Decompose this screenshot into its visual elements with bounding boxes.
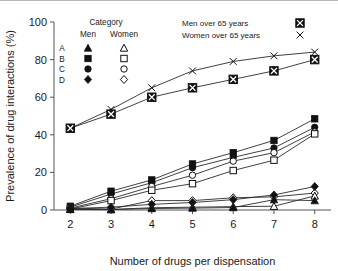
legend-marker-open-circle — [121, 66, 127, 72]
marker-filled-square — [271, 137, 277, 143]
legend-marker-filled-diamond — [84, 76, 91, 84]
chart-figure: 0204060801002345678Number of drugs per d… — [0, 0, 338, 271]
y-tick-label: 60 — [35, 91, 47, 103]
legend-marker-open-triangle — [120, 44, 127, 51]
x-tick-label: 8 — [312, 218, 318, 230]
legend-row-label-a: A — [59, 44, 65, 53]
legend-marker-x — [297, 32, 304, 39]
x-tick-label: 2 — [67, 218, 73, 230]
legend-row-label-c: C — [59, 65, 65, 74]
legend-col-men: Men — [80, 30, 96, 39]
x-tick-label: 4 — [149, 218, 155, 230]
legend-over65-label: Men over 65 years — [182, 19, 248, 28]
marker-filled-diamond — [311, 183, 318, 191]
legend-col-women: Women — [110, 30, 139, 39]
marker-open-square — [230, 167, 236, 173]
y-tick-label: 0 — [41, 204, 47, 216]
x-axis-title: Number of drugs per dispensation — [110, 255, 276, 267]
x-tick-label: 7 — [271, 218, 277, 230]
x-tick-label: 5 — [189, 218, 195, 230]
marker-filled-circle — [189, 165, 195, 171]
marker-open-square — [189, 180, 195, 186]
marker-open-circle — [271, 149, 277, 155]
legend-over65-label: Women over 65 years — [182, 31, 260, 40]
legend-marker-filled-square — [85, 55, 91, 61]
y-tick-label: 40 — [35, 129, 47, 141]
y-tick-label: 20 — [35, 166, 47, 178]
marker-x — [148, 84, 155, 91]
prevalence-line-chart: 0204060801002345678Number of drugs per d… — [0, 1, 338, 271]
legend-marker-open-square — [121, 55, 127, 61]
x-tick-label: 6 — [230, 218, 236, 230]
marker-open-circle — [230, 158, 236, 164]
x-tick-label: 3 — [108, 218, 114, 230]
y-tick-label: 100 — [29, 16, 47, 28]
marker-open-square — [149, 187, 155, 193]
legend-marker-open-diamond — [120, 76, 127, 84]
y-axis-title: Prevalence of drug interactions (%) — [4, 30, 16, 202]
marker-open-square — [271, 157, 277, 163]
y-tick-label: 80 — [35, 54, 47, 66]
marker-open-square — [312, 131, 318, 137]
legend-marker-filled-triangle — [84, 44, 91, 51]
legend-row-label-b: B — [59, 55, 65, 64]
legend-category-title: Category — [89, 18, 123, 27]
marker-open-circle — [189, 172, 195, 178]
legend-marker-filled-circle — [85, 66, 91, 72]
marker-filled-square — [312, 116, 318, 122]
legend-row-label-d: D — [59, 76, 65, 85]
marker-x — [189, 67, 196, 74]
